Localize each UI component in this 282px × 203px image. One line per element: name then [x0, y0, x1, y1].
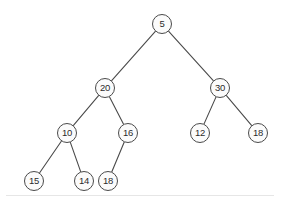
tree-edge-5-to-30 — [169, 31, 214, 80]
tree-edge-30-to-12 — [204, 97, 216, 124]
tree-edge-10-to-14 — [70, 142, 80, 171]
tree-node-18[interactable]: 18 — [98, 171, 118, 191]
tree-node-20[interactable]: 20 — [95, 78, 115, 98]
tree-edges-layer — [0, 0, 282, 203]
tree-edge-16-to-18 — [112, 142, 124, 172]
tree-edge-20-to-16 — [110, 97, 124, 124]
tree-edge-20-to-10 — [73, 96, 98, 126]
tree-node-label: 14 — [79, 176, 89, 186]
tree-node-label: 18 — [253, 128, 263, 138]
tree-node-label: 16 — [123, 128, 133, 138]
tree-edge-10-to-15 — [40, 141, 62, 173]
tree-node-16[interactable]: 16 — [118, 123, 138, 143]
tree-edge-5-to-20 — [112, 31, 156, 80]
tree-node-14[interactable]: 14 — [74, 171, 94, 191]
binary-tree-diagram: 5203010161218151418 — [0, 0, 282, 203]
tree-edge-30-to-18 — [226, 96, 251, 126]
tree-node-15[interactable]: 15 — [24, 171, 44, 191]
tree-node-label: 18 — [103, 176, 113, 186]
tree-node-label: 20 — [100, 83, 110, 93]
bottom-rule — [6, 195, 274, 196]
tree-node-label: 5 — [160, 19, 165, 29]
tree-node-30[interactable]: 30 — [210, 78, 230, 98]
tree-node-12[interactable]: 12 — [190, 123, 210, 143]
tree-node-10[interactable]: 10 — [57, 123, 77, 143]
tree-node-label: 30 — [215, 83, 225, 93]
tree-node-label: 12 — [195, 128, 205, 138]
tree-node-5[interactable]: 5 — [152, 14, 172, 34]
tree-node-label: 10 — [62, 128, 72, 138]
tree-node-label: 15 — [29, 176, 39, 186]
tree-node-18[interactable]: 18 — [248, 123, 268, 143]
